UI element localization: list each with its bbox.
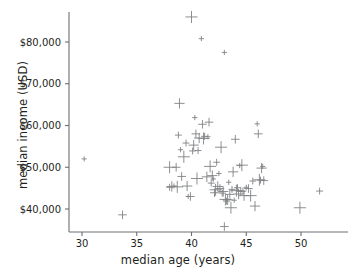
data-point-marker: [244, 184, 253, 193]
x-tick-label: 45: [240, 238, 253, 249]
data-point-marker: [183, 140, 190, 147]
data-point-marker: [82, 156, 87, 161]
data-point-marker: [186, 11, 198, 23]
data-point-marker: [195, 147, 202, 154]
data-point-marker: [236, 159, 248, 171]
x-tick-label: 50: [295, 238, 308, 249]
data-point-marker: [226, 180, 231, 185]
data-point-marker: [172, 163, 181, 172]
x-tick-label: 30: [76, 238, 89, 249]
x-axis-title: median age (years): [0, 253, 356, 267]
data-point-marker: [175, 132, 182, 139]
data-point-marker: [254, 130, 263, 139]
y-axis-title: median income (USD): [16, 25, 30, 225]
tick-marks: [65, 42, 301, 236]
data-point-marker: [231, 135, 240, 144]
data-point-marker: [202, 172, 212, 182]
data-point-marker: [223, 198, 230, 205]
data-point-marker: [118, 211, 127, 220]
data-point-marker: [199, 36, 204, 41]
data-point-marker: [186, 192, 195, 201]
data-point-marker: [222, 50, 227, 55]
x-tick-label: 35: [130, 238, 143, 249]
data-point-marker: [205, 118, 214, 127]
scatter-chart: 3035404550 $40,000$50,000$60,000$70,000$…: [0, 0, 356, 275]
plot-area: 3035404550 $40,000$50,000$60,000$70,000$…: [0, 0, 356, 275]
data-point-marker: [189, 140, 199, 150]
data-point-marker: [178, 147, 183, 152]
data-point-marker: [245, 190, 257, 202]
data-point-marker: [177, 172, 186, 181]
data-point-marker: [256, 163, 266, 173]
data-point-marker: [171, 181, 183, 193]
data-point-marker: [192, 115, 197, 120]
data-point-marker: [220, 222, 229, 231]
data-point-marker: [294, 202, 306, 214]
data-point-marker: [182, 181, 192, 191]
data-point-marker: [213, 159, 220, 166]
data-point-marker: [191, 173, 203, 185]
data-points: [82, 11, 323, 231]
data-point-marker: [215, 141, 227, 153]
data-point-marker: [232, 198, 237, 203]
data-point-marker: [234, 184, 241, 191]
data-point-marker: [198, 120, 207, 129]
data-point-marker: [228, 167, 238, 177]
data-point-marker: [178, 151, 190, 163]
data-point-marker: [255, 121, 260, 126]
data-point-marker: [250, 201, 260, 211]
data-point-marker: [249, 178, 256, 185]
data-point-marker: [174, 98, 184, 108]
data-point-marker: [316, 188, 323, 195]
x-tick-label: 40: [185, 238, 198, 249]
x-tick-labels: 3035404550: [76, 238, 308, 249]
